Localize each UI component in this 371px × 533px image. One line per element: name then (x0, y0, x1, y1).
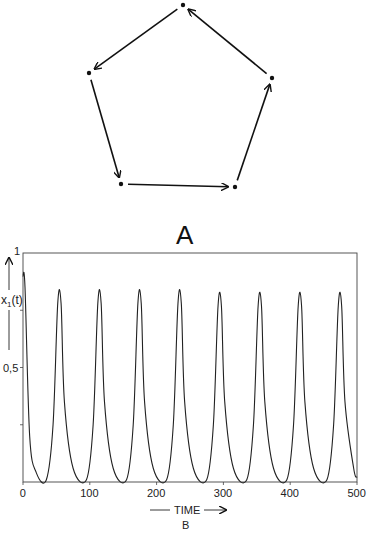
plot-frame (23, 253, 357, 482)
edge-arrow (188, 9, 266, 73)
edge-arrow (128, 184, 228, 187)
x-tick-label: 200 (147, 487, 165, 499)
edge-arrow (91, 80, 119, 178)
node-dot (233, 185, 237, 189)
x-tick-label: 300 (214, 487, 232, 499)
x-tick-label: 100 (80, 487, 98, 499)
chart-caption: B (182, 519, 189, 531)
edge-arrow (237, 85, 269, 181)
x1-series-line (23, 272, 357, 483)
x-tick-label: 0 (20, 487, 26, 499)
x-tick-label: 400 (281, 487, 299, 499)
time-series-chart (9, 253, 357, 510)
node-dot (181, 3, 185, 7)
pentagon-diagram (87, 3, 274, 189)
y-tick-1: 1 (14, 245, 20, 257)
node-dot (270, 76, 274, 80)
x-tick-label: 500 (347, 487, 365, 499)
figure (0, 0, 371, 533)
diagram-label: A (176, 220, 193, 251)
node-dot (119, 182, 123, 186)
y-axis-label: x1(t) (1, 293, 23, 309)
node-dot (87, 71, 91, 75)
edge-arrow (95, 9, 178, 69)
y-tick-0-5: 0,5 (3, 362, 18, 374)
x-axis-label: TIME (174, 504, 200, 516)
